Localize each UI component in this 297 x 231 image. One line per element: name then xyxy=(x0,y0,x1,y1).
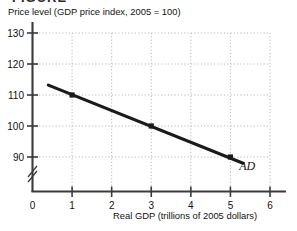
x-axis-title: Real GDP (trillions of 2005 dollars) xyxy=(113,210,257,222)
y-tick-label: 120 xyxy=(7,59,24,70)
x-tick-label: 0 xyxy=(30,200,36,211)
data-point-marker xyxy=(149,123,154,128)
y-tick-label: 90 xyxy=(13,152,25,163)
gridlines xyxy=(33,33,271,192)
chart-text-labels: AD xyxy=(238,159,255,173)
y-tick-label: 130 xyxy=(7,28,24,39)
data-point-marker xyxy=(228,154,233,159)
y-tick-label: 100 xyxy=(7,121,24,132)
x-tick-label: 1 xyxy=(69,200,75,211)
ad-curve-label: AD xyxy=(238,159,255,173)
aggregate-demand-chart: 90100110120130 0123456 AD xyxy=(0,0,297,231)
y-tick-label: 110 xyxy=(8,90,24,101)
ad-curve xyxy=(48,85,243,163)
x-axis-ticks: 0123456 xyxy=(30,187,274,212)
x-tick-label: 6 xyxy=(267,200,273,211)
data-point-marker xyxy=(69,92,74,97)
